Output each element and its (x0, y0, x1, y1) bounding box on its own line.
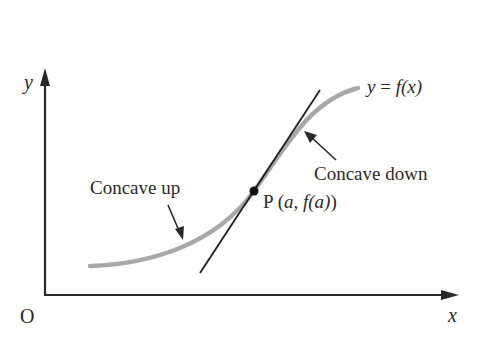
point-comma: , (293, 191, 303, 212)
point-p-marker (250, 187, 259, 196)
origin-label: O (20, 306, 34, 326)
x-axis (44, 290, 459, 300)
tangent-line (200, 90, 320, 273)
x-axis-arrow-icon (441, 290, 459, 300)
curve-label: y = f(x) (367, 77, 422, 96)
curve-label-eq: = (375, 76, 395, 97)
concave-up-arrow (168, 205, 184, 240)
concavity-diagram: y x O y = f(x) Concave up Concave down P… (0, 0, 477, 340)
point-p-label: P (a, f(a)) (263, 192, 337, 211)
point-coord-fa: f(a) (303, 191, 330, 212)
point-open-paren: ( (273, 191, 284, 212)
concave-down-label: Concave down (314, 164, 427, 183)
y-axis (40, 68, 50, 296)
y-axis-arrow-icon (40, 68, 50, 86)
point-name: P (263, 191, 273, 212)
arrowhead-icon (175, 226, 184, 240)
y-axis-label: y (24, 72, 33, 92)
concave-up-label: Concave up (90, 178, 180, 197)
point-close-paren: ) (330, 191, 336, 212)
x-axis-label: x (448, 305, 457, 325)
curve-label-rhs: f(x) (396, 76, 422, 97)
concave-down-arrow (304, 131, 336, 160)
